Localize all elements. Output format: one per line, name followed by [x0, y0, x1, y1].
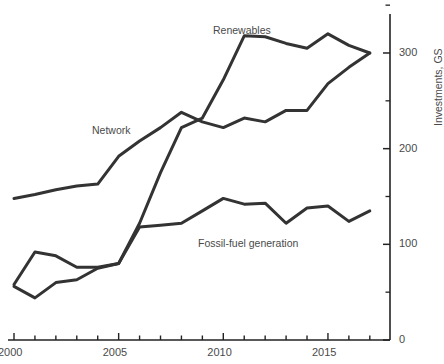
series-label-renewables: Renewables	[213, 24, 271, 36]
y-tick-label: 200	[399, 142, 417, 154]
y-tick-label: 100	[399, 237, 417, 249]
series-label-network: Network	[92, 124, 131, 136]
y-tick-label: 0	[399, 333, 405, 345]
x-tick-label: 2015	[312, 346, 336, 358]
data-series-group	[14, 34, 370, 298]
y-axis-title: Investments, GS	[432, 48, 444, 126]
x-tick-label: 2000	[0, 346, 22, 358]
y-axis-ticks	[383, 5, 390, 340]
y-tick-label: 300	[399, 46, 417, 58]
x-tick-label: 2005	[103, 346, 127, 358]
series-line-network	[14, 53, 370, 198]
x-axis-ticks	[14, 333, 370, 340]
axes	[8, 14, 390, 340]
series-label-fossil-fuel-generation: Fossil-fuel generation	[198, 237, 298, 249]
series-line-fossil-fuel-generation	[14, 198, 370, 284]
x-tick-label: 2010	[207, 346, 231, 358]
series-line-renewables	[14, 34, 370, 298]
